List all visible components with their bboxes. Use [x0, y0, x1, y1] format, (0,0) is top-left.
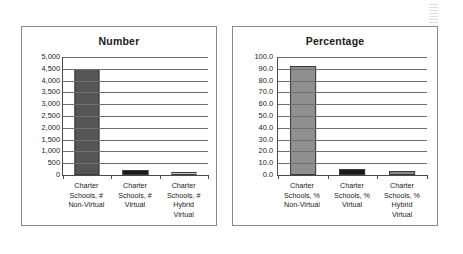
chart-percentage-category-label-line: Hybrid [377, 200, 427, 210]
chart-percentage-category-label-line: Virtual [377, 210, 427, 220]
chart-number-x-tick [63, 175, 64, 179]
chart-number-category-label-line: Non-Virtual [62, 200, 111, 210]
chart-percentage-gridline [278, 151, 427, 152]
chart-number-x-tick [160, 175, 161, 179]
chart-number-y-axis-labels: 5,0004,5004,0003,5003,0002,5002,0001,500… [26, 57, 60, 175]
chart-number-gridline [63, 57, 208, 58]
chart-percentage-category-label: CharterSchools, %Virtual [327, 181, 377, 210]
chart-number-category-labels: CharterSchools, #Non-VirtualCharterSchoo… [22, 181, 216, 241]
chart-percentage-y-tick-label: 0.0 [263, 171, 273, 178]
chart-number-gridline [63, 128, 208, 129]
chart-number-y-tick-label: 3,500 [42, 89, 61, 96]
chart-number-y-tick-label: 1,000 [42, 148, 61, 155]
chart-percentage-gridline [278, 92, 427, 93]
chart-number-category-label-line: Charter [159, 181, 208, 191]
chart-percentage-x-tick [278, 175, 279, 179]
chart-number-plot [62, 57, 208, 176]
chart-percentage-plot-area: 100.090.080.070.060.050.040.030.020.010.… [233, 57, 437, 225]
chart-percentage-gridline [278, 81, 427, 82]
chart-number-category-label-line: Charter [62, 181, 111, 191]
chart-percentage-x-tick [377, 175, 378, 179]
chart-number-gridline [63, 151, 208, 152]
chart-number-y-tick-label: 4,500 [42, 65, 61, 72]
chart-percentage-bar[interactable] [340, 169, 366, 175]
chart-percentage-category-labels: CharterSchools, %Non-VirtualCharterSchoo… [233, 181, 437, 241]
chart-number-y-tick-label: 2,500 [42, 112, 61, 119]
chart-number-gridline [63, 163, 208, 164]
scan-artifact-icon [429, 4, 438, 24]
chart-percentage-gridline [278, 104, 427, 105]
chart-number-category-label-line: Schools, # [159, 191, 208, 201]
chart-percentage-gridline [278, 163, 427, 164]
chart-percentage-y-tick-label: 90.0 [259, 65, 273, 72]
chart-percentage-bar[interactable] [389, 171, 415, 175]
chart-percentage: Percentage 100.090.080.070.060.050.040.0… [232, 26, 438, 226]
chart-percentage-y-tick-label: 50.0 [259, 112, 273, 119]
chart-percentage-category-label-line: Schools, % [277, 191, 327, 201]
chart-percentage-y-axis-labels: 100.090.080.070.060.050.040.030.020.010.… [239, 57, 273, 175]
chart-percentage-category-label-line: Charter [327, 181, 377, 191]
chart-number-y-tick-label: 0 [56, 171, 60, 178]
chart-number-category-label-line: Hybrid [159, 200, 208, 210]
chart-number-y-tick-label: 4,000 [42, 77, 61, 84]
chart-number-y-tick-label: 3,000 [42, 100, 61, 107]
chart-number-x-tick [208, 175, 209, 179]
chart-percentage-y-tick-label: 70.0 [259, 89, 273, 96]
chart-percentage-gridline [278, 69, 427, 70]
chart-number-category-label: CharterSchools, #HybridVirtual [159, 181, 208, 219]
chart-percentage-category-label: CharterSchools, %HybridVirtual [377, 181, 427, 219]
chart-percentage-category-label-line: Charter [377, 181, 427, 191]
chart-percentage-gridline [278, 116, 427, 117]
chart-number-category-label-line: Schools, # [111, 191, 160, 201]
chart-number-bar[interactable] [123, 170, 148, 175]
chart-number-category-label: CharterSchools, #Non-Virtual [62, 181, 111, 210]
chart-percentage-gridline [278, 128, 427, 129]
chart-number-bar[interactable] [171, 172, 196, 175]
chart-percentage-title: Percentage [233, 35, 437, 47]
chart-percentage-bar[interactable] [290, 66, 316, 175]
chart-number-category-label: CharterSchools, #Virtual [111, 181, 160, 210]
chart-number-category-label-line: Virtual [159, 210, 208, 220]
chart-percentage-y-tick-label: 100.0 [255, 53, 274, 60]
scanned-page: Number 5,0004,5004,0003,5003,0002,5002,0… [0, 0, 463, 254]
chart-number-y-tick-label: 2,000 [42, 124, 61, 131]
chart-number-gridline [63, 104, 208, 105]
chart-percentage-category-label-line: Virtual [327, 200, 377, 210]
chart-number-y-tick-label: 5,000 [42, 53, 61, 60]
chart-percentage-category-label: CharterSchools, %Non-Virtual [277, 181, 327, 210]
chart-number-category-label-line: Virtual [111, 200, 160, 210]
chart-percentage-y-tick-label: 40.0 [259, 124, 273, 131]
chart-number-gridline [63, 140, 208, 141]
chart-number-plot-area: 5,0004,5004,0003,5003,0002,5002,0001,500… [22, 57, 216, 225]
chart-percentage-gridline [278, 140, 427, 141]
chart-number-gridline [63, 92, 208, 93]
chart-number-x-tick [111, 175, 112, 179]
chart-number-category-label-line: Charter [111, 181, 160, 191]
chart-percentage-category-label-line: Schools, % [377, 191, 427, 201]
chart-percentage-x-tick [328, 175, 329, 179]
chart-number-title: Number [22, 35, 216, 47]
chart-percentage-gridline [278, 57, 427, 58]
chart-percentage-x-tick [427, 175, 428, 179]
chart-number-category-label-line: Schools, # [62, 191, 111, 201]
chart-percentage-plot [277, 57, 427, 176]
chart-number: Number 5,0004,5004,0003,5003,0002,5002,0… [21, 26, 217, 226]
chart-number-y-tick-label: 1,500 [42, 136, 61, 143]
chart-percentage-y-tick-label: 30.0 [259, 136, 273, 143]
chart-number-bar[interactable] [75, 69, 100, 175]
chart-percentage-y-tick-label: 10.0 [259, 159, 273, 166]
chart-number-gridline [63, 69, 208, 70]
chart-number-gridline [63, 81, 208, 82]
chart-percentage-y-tick-label: 60.0 [259, 100, 273, 107]
chart-percentage-y-tick-label: 20.0 [259, 148, 273, 155]
chart-percentage-y-tick-label: 80.0 [259, 77, 273, 84]
chart-percentage-category-label-line: Non-Virtual [277, 200, 327, 210]
chart-percentage-category-label-line: Schools, % [327, 191, 377, 201]
chart-number-y-tick-label: 500 [48, 159, 60, 166]
chart-percentage-category-label-line: Charter [277, 181, 327, 191]
chart-number-gridline [63, 116, 208, 117]
